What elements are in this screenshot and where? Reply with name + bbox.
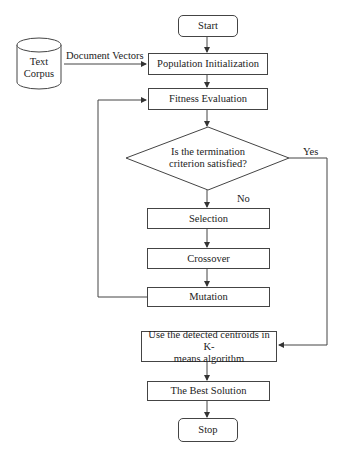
stop-node: Stop <box>178 418 238 442</box>
crossover-node: Crossover <box>147 248 270 269</box>
document-vectors-label: Document Vectors <box>66 50 144 62</box>
population-initialization-node: Population Initialization <box>148 53 268 75</box>
text-corpus-line1: Text <box>17 56 61 68</box>
kmeans-node: Use the detected centroids in K- means a… <box>141 331 277 362</box>
decision-line1: Is the termination <box>150 146 266 158</box>
mutation-node: Mutation <box>147 287 270 307</box>
fitness-evaluation-node: Fitness Evaluation <box>148 88 268 110</box>
decision-line2: criterion satisfied? <box>150 158 266 170</box>
best-solution-node: The Best Solution <box>147 381 270 401</box>
kmeans-line2: means algorithm <box>174 353 244 365</box>
yes-label: Yes <box>303 146 318 158</box>
decision-node: Is the termination criterion satisfied? <box>150 146 266 170</box>
start-node: Start <box>178 15 238 37</box>
no-label: No <box>237 193 250 205</box>
text-corpus-node: Text Corpus <box>17 56 61 80</box>
kmeans-line1: Use the detected centroids in K- <box>142 329 276 353</box>
text-corpus-line2: Corpus <box>17 68 61 80</box>
selection-node: Selection <box>147 208 270 229</box>
